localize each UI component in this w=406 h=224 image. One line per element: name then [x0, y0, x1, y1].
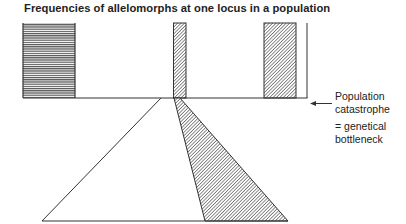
- allele-bar-middle: [174, 23, 187, 98]
- annotation-line-3: = genetical: [335, 120, 386, 132]
- annotation-line-1: Population: [335, 90, 385, 102]
- allele-bar-left: [23, 23, 75, 98]
- annotation-line-2: catastrophe: [335, 103, 390, 115]
- descendant-population-triangle: [42, 98, 288, 221]
- allele-bar-right: [264, 23, 296, 98]
- annotation-line-4: bottleneck: [335, 133, 383, 145]
- arrow-left-icon: [310, 101, 332, 106]
